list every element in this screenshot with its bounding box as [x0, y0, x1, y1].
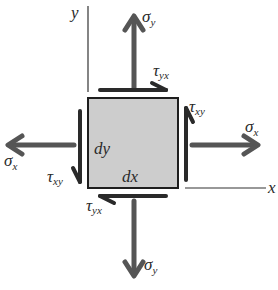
- sigma-x-left-label: σx: [4, 151, 17, 172]
- tau-xy-right-label: τxy: [189, 97, 205, 117]
- sigma-y-bottom-arrow: [125, 201, 143, 276]
- sigma-x-right-arrow: [192, 136, 258, 154]
- dx-label: dx: [122, 167, 139, 186]
- sigma-y-top-arrow: [125, 16, 143, 88]
- stress-element-diagram: y x dy dx σy τyx τxy σx σx: [0, 0, 278, 290]
- dy-label: dy: [94, 139, 111, 158]
- y-axis-label: y: [69, 3, 79, 22]
- sigma-y-bottom-label: σy: [144, 255, 157, 276]
- tau-yx-bottom-label: τyx: [86, 196, 102, 216]
- sigma-x-right-label: σx: [245, 117, 258, 138]
- tau-xy-left-label: τxy: [47, 167, 63, 187]
- x-axis-label: x: [267, 178, 276, 197]
- tau-yx-top-label: τyx: [153, 61, 169, 81]
- sigma-y-top-label: σy: [142, 7, 155, 28]
- sigma-x-left-arrow: [8, 136, 74, 154]
